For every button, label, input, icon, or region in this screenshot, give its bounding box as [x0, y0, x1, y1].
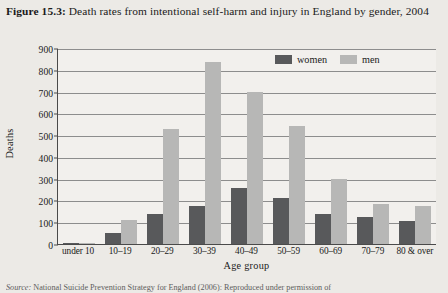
x-axis-title: Age group	[57, 260, 436, 271]
bar-group	[268, 49, 310, 244]
y-tick-label: 100	[13, 218, 53, 229]
bar-men-40-49[interactable]	[247, 92, 263, 244]
bar-group	[352, 49, 394, 244]
legend-swatch-men	[340, 55, 357, 64]
bar-chart: Deaths 9008007006005004003002001000 unde…	[0, 40, 448, 275]
source-label: Source:	[6, 283, 31, 292]
bar-men-50-59[interactable]	[289, 126, 305, 244]
x-tick-label: 10–19	[99, 246, 141, 256]
bar-group	[226, 49, 268, 244]
bar-women-40-49[interactable]	[231, 188, 247, 244]
bar-men-10-19[interactable]	[121, 220, 137, 244]
bar-women-10-19[interactable]	[105, 233, 121, 244]
bar-group	[58, 49, 100, 244]
x-tick-label: 80 & over	[394, 246, 436, 256]
bar-group	[394, 49, 436, 244]
bar-men-under-10[interactable]	[79, 243, 95, 244]
bar-women-60-69[interactable]	[315, 214, 331, 244]
y-tick-label: 300	[13, 174, 53, 185]
legend-label: women	[297, 54, 327, 65]
bar-men-30-39[interactable]	[205, 62, 221, 244]
x-axis-ticks: under 1010–1920–2930–3940–4950–5960–6970…	[57, 246, 436, 256]
y-tick-label: 900	[13, 44, 53, 55]
bar-group	[310, 49, 352, 244]
x-tick-label: 50–59	[268, 246, 310, 256]
legend-item-women[interactable]: women	[275, 54, 327, 65]
plot-area: 9008007006005004003002001000	[57, 49, 436, 245]
bars-layer	[58, 49, 436, 244]
bar-men-20-29[interactable]	[163, 129, 179, 244]
y-tick-label: 200	[13, 196, 53, 207]
bar-women-30-39[interactable]	[189, 206, 205, 244]
figure-number: Figure 15.3:	[6, 5, 66, 17]
figure-caption: Figure 15.3: Death rates from intentiona…	[6, 4, 442, 19]
bar-women-70-79[interactable]	[357, 217, 373, 244]
bar-group	[142, 49, 184, 244]
y-tick-label: 500	[13, 131, 53, 142]
source-note: Source: National Suicide Prevention Stra…	[6, 283, 448, 292]
bar-men-60-69[interactable]	[331, 179, 347, 244]
source-text: National Suicide Prevention Strategy for…	[31, 283, 331, 292]
chart-legend: womenmen	[275, 54, 380, 65]
bar-group	[100, 49, 142, 244]
y-tick-label: 800	[13, 65, 53, 76]
bar-women-80-over[interactable]	[399, 221, 415, 244]
x-tick-label: 40–49	[225, 246, 267, 256]
bar-women-50-59[interactable]	[273, 198, 289, 244]
bar-women-under-10[interactable]	[63, 243, 79, 244]
figure-title: Death rates from intentional self-harm a…	[66, 5, 429, 17]
x-tick-label: 20–29	[141, 246, 183, 256]
y-tick-label: 0	[13, 240, 53, 251]
y-tick-label: 600	[13, 109, 53, 120]
x-tick-label: 70–79	[352, 246, 394, 256]
bar-men-80-over[interactable]	[415, 206, 431, 244]
y-tick-label: 700	[13, 87, 53, 98]
bar-group	[184, 49, 226, 244]
bar-women-20-29[interactable]	[147, 214, 163, 244]
x-tick-label: under 10	[57, 246, 99, 256]
legend-item-men[interactable]: men	[340, 54, 380, 65]
x-tick-label: 60–69	[310, 246, 352, 256]
x-tick-label: 30–39	[183, 246, 225, 256]
legend-swatch-women	[275, 55, 292, 64]
bar-men-70-79[interactable]	[373, 204, 389, 244]
legend-label: men	[362, 54, 380, 65]
y-tick-label: 400	[13, 152, 53, 163]
